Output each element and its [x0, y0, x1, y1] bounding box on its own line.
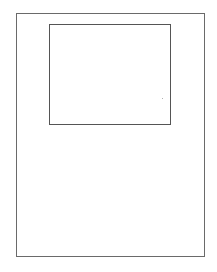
- stray-mark: [162, 98, 163, 99]
- inner-content-frame: [49, 24, 171, 125]
